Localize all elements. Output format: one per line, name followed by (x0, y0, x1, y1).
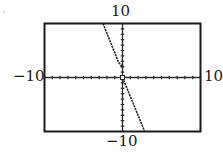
open-endpoint-marker (121, 76, 125, 80)
curve-segment-1 (103, 24, 122, 67)
curve-segment-2 (123, 78, 145, 132)
closed-endpoint-marker (121, 65, 124, 68)
graph-window (0, 0, 223, 152)
